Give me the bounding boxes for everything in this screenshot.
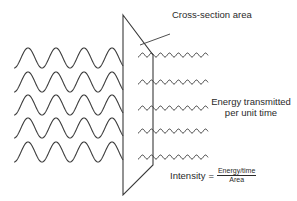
cross-section-leader-line bbox=[140, 34, 170, 45]
formula-numerator: Energy/time bbox=[217, 167, 256, 176]
transmitted-wave bbox=[138, 106, 208, 110]
energy-label-line1: Energy transmitted bbox=[207, 96, 295, 107]
incident-wave bbox=[14, 72, 123, 92]
transmitted-waves bbox=[138, 53, 208, 159]
transmitted-wave bbox=[138, 53, 208, 57]
formula-fraction: Energy/time Area bbox=[217, 167, 256, 184]
energy-label-line2: per unit time bbox=[207, 107, 295, 118]
incident-waves bbox=[14, 48, 123, 162]
incident-wave bbox=[14, 142, 123, 162]
formula-denominator: Area bbox=[229, 176, 244, 184]
incident-wave bbox=[14, 118, 123, 138]
transmitted-wave bbox=[138, 80, 208, 84]
formula-equals: = bbox=[208, 170, 214, 181]
formula-lhs: Intensity bbox=[170, 170, 205, 181]
incident-wave bbox=[14, 95, 123, 115]
intensity-formula: Intensity = Energy/time Area bbox=[170, 167, 256, 184]
transmitted-wave bbox=[138, 129, 208, 133]
incident-wave bbox=[14, 48, 123, 68]
energy-label: Energy transmitted per unit time bbox=[207, 96, 295, 118]
cross-section-label: Cross-section area bbox=[172, 9, 252, 20]
transmitted-wave bbox=[138, 155, 208, 159]
